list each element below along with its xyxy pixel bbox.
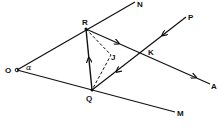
label-J: J [111, 53, 115, 62]
geometry-diagram: O α R Q K J N P A M [0, 0, 218, 128]
label-O: O [5, 66, 11, 75]
point-Q [91, 89, 94, 92]
label-R: R [82, 18, 88, 27]
ray-OM [17, 70, 175, 112]
line-PQ [92, 17, 186, 90]
label-N: N [137, 0, 143, 9]
ray-ON [17, 2, 135, 70]
label-alpha: α [26, 63, 32, 72]
label-P: P [188, 13, 194, 22]
label-K: K [148, 48, 154, 57]
label-A: A [211, 82, 217, 91]
label-M: M [177, 109, 184, 118]
line-QR [86, 29, 92, 90]
label-Q: Q [86, 94, 92, 103]
point-R [85, 28, 88, 31]
